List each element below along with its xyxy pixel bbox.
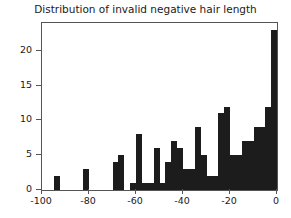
histogram-bar xyxy=(118,155,124,190)
x-axis-tick-label: -20 xyxy=(221,195,237,206)
bars-container xyxy=(42,23,277,190)
x-axis-tick-label: -60 xyxy=(127,195,143,206)
x-axis-tick xyxy=(182,189,183,194)
y-axis-tick-label: 0 xyxy=(0,183,32,194)
histogram-bar xyxy=(136,134,142,190)
histogram-bar xyxy=(54,176,60,190)
x-axis-tick-label: -40 xyxy=(174,195,190,206)
y-axis-tick xyxy=(36,50,41,51)
histogram-figure: Distribution of invalid negative hair le… xyxy=(0,0,291,218)
y-axis-tick-label: 10 xyxy=(0,113,32,124)
histogram-bar xyxy=(83,169,89,190)
x-axis-tick-label: -80 xyxy=(80,195,96,206)
y-axis-tick xyxy=(36,85,41,86)
y-axis-tick xyxy=(36,119,41,120)
x-axis-tick-label: 0 xyxy=(273,195,279,206)
y-axis-tick-label: 5 xyxy=(0,148,32,159)
plot-area xyxy=(41,22,278,191)
chart-title: Distribution of invalid negative hair le… xyxy=(0,3,291,15)
x-axis-tick xyxy=(229,189,230,194)
y-axis-tick-label: 15 xyxy=(0,79,32,90)
y-axis-tick xyxy=(36,154,41,155)
x-axis-tick xyxy=(88,189,89,194)
x-axis-tick xyxy=(41,189,42,194)
x-axis-tick xyxy=(276,189,277,194)
x-axis-tick-label: -100 xyxy=(30,195,52,206)
histogram-bar xyxy=(271,30,277,190)
x-axis-tick xyxy=(135,189,136,194)
y-axis-tick-label: 20 xyxy=(0,44,32,55)
